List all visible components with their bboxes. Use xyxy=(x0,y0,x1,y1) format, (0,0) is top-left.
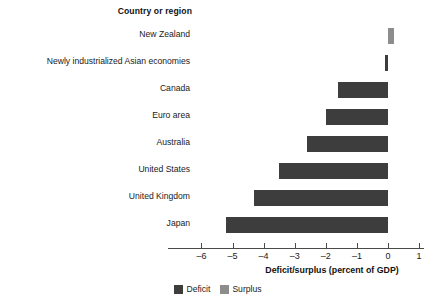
category-label: Euro area xyxy=(152,110,190,120)
x-axis-line xyxy=(168,248,424,249)
x-axis-tick xyxy=(388,243,389,249)
x-axis-tick-label: –2 xyxy=(321,251,331,261)
legend-label: Deficit xyxy=(186,284,210,294)
chart-row: Australia xyxy=(0,130,436,157)
bar-deficit xyxy=(254,190,388,206)
chart-row: Canada xyxy=(0,76,436,103)
x-axis-tick-label: 1 xyxy=(417,251,422,261)
category-label: Canada xyxy=(160,83,190,93)
legend-label: Surplus xyxy=(232,284,261,294)
legend-swatch-icon xyxy=(174,285,183,294)
category-label: Newly industrialized Asian economies xyxy=(47,56,190,66)
x-axis-tick xyxy=(419,243,420,249)
deficit-surplus-bar-chart: p Country or region New ZealandNewly ind… xyxy=(0,0,436,300)
x-axis-tick xyxy=(264,243,265,249)
bar-deficit xyxy=(338,82,388,98)
bar-deficit xyxy=(307,136,388,152)
bar-deficit xyxy=(326,109,388,125)
category-label: New Zealand xyxy=(139,29,190,39)
chart-row: New Zealand xyxy=(0,22,436,49)
chart-row: Euro area xyxy=(0,103,436,130)
x-axis-tick-label: –1 xyxy=(352,251,362,261)
category-label: United Kingdom xyxy=(129,191,190,201)
chart-row: United States xyxy=(0,157,436,184)
chart-row: Newly industrialized Asian economies xyxy=(0,49,436,76)
x-axis-tick xyxy=(233,243,234,249)
x-axis-tick-label: –4 xyxy=(259,251,269,261)
x-axis-tick-label: –3 xyxy=(290,251,300,261)
x-axis-tick xyxy=(295,243,296,249)
bar-surplus xyxy=(388,28,394,44)
plot-area: New ZealandNewly industrialized Asian ec… xyxy=(0,22,436,248)
x-axis-tick-label: –6 xyxy=(196,251,206,261)
category-label: Australia xyxy=(157,137,190,147)
category-label: Japan xyxy=(167,218,190,228)
x-axis-tick xyxy=(201,243,202,249)
chart-row: United Kingdom xyxy=(0,184,436,211)
bar-deficit xyxy=(279,163,388,179)
chart-legend: DeficitSurplus xyxy=(0,284,436,294)
bar-deficit xyxy=(385,55,388,71)
column-header-country-or-region: Country or region xyxy=(118,6,192,16)
bar-deficit xyxy=(226,217,388,233)
category-label: United States xyxy=(138,164,190,174)
x-axis-tick xyxy=(326,243,327,249)
legend-swatch-icon xyxy=(220,285,229,294)
x-axis-tick-label: –5 xyxy=(227,251,237,261)
chart-row: Japan xyxy=(0,211,436,238)
x-axis-tick-label: 0 xyxy=(385,251,390,261)
legend-item: Deficit xyxy=(174,284,210,294)
x-axis-title: Deficit/surplus (percent of GDP) xyxy=(228,265,436,275)
x-axis-tick xyxy=(357,243,358,249)
legend-item: Surplus xyxy=(220,284,261,294)
